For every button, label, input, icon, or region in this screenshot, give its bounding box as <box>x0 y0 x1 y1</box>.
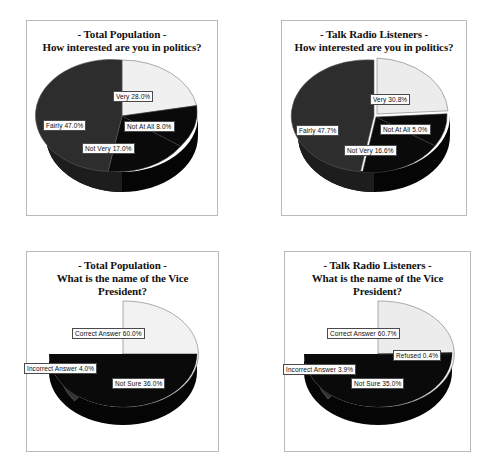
slice-label-fairly: Fairly 47.0% <box>43 120 86 131</box>
chart-title-line-1: - Talk Radio Listeners - <box>287 28 461 41</box>
chart-title-line-1: - Total Population - <box>32 259 213 272</box>
chart-title-line-2: What is the name of the Vice President? <box>290 272 465 298</box>
slice-label-not-at-all: Not At All 8.0% <box>124 121 175 132</box>
chart-title-line-2: How interested are you in politics? <box>32 41 212 54</box>
pie-svg <box>286 54 462 194</box>
slice-label-not-very: Not Very 16.6% <box>344 145 397 156</box>
pie-chart-talk-radio-interest: Very 30.8% Fairly 47.7% Not At All 5.0% … <box>282 54 466 194</box>
pie-slices <box>35 59 197 171</box>
pie-slices <box>49 301 198 407</box>
chart-panel-total-population-interest: - Total Population - How interested are … <box>26 20 218 216</box>
slice-very <box>377 58 448 114</box>
slice-label-incorrect-answer: Incorrect Answer 4.0% <box>24 363 97 374</box>
chart-title-line-2: What is the name of the Vice President? <box>32 272 213 298</box>
chart-title: - Talk Radio Listeners - How interested … <box>282 21 466 54</box>
slice-label-correct-answer: Correct Answer 60.7% <box>327 328 400 339</box>
slice-label-correct-answer: Correct Answer 60.0% <box>72 328 145 339</box>
chart-panel-talk-radio-vp: - Talk Radio Listeners - What is the nam… <box>284 251 471 452</box>
chart-title: - Total Population - How interested are … <box>27 21 217 54</box>
slice-label-not-sure: Not Sure 36.0% <box>112 378 165 389</box>
report-page: - Total Population - How interested are … <box>0 0 485 473</box>
slice-label-fairly: Fairly 47.7% <box>296 125 339 136</box>
slice-label-not-at-all: Not At All 5.0% <box>380 124 431 135</box>
slice-label-incorrect-answer: Incorrect Answer 3.9% <box>283 364 356 375</box>
pie-chart-talk-radio-vp: Correct Answer 60.7% Refused 0.4% Incorr… <box>285 298 470 426</box>
slice-fairly <box>35 59 122 171</box>
chart-title: - Talk Radio Listeners - What is the nam… <box>285 252 470 298</box>
slice-label-not-sure: Not Sure 35.0% <box>351 378 404 389</box>
pie-svg <box>33 298 213 426</box>
slice-label-not-very: Not Very 17.0% <box>82 143 135 154</box>
chart-panel-total-population-vp: - Total Population - What is the name of… <box>26 251 219 452</box>
pie-svg <box>290 298 466 426</box>
pie-chart-total-population-vp: Correct Answer 60.0% Incorrect Answer 4.… <box>27 298 218 426</box>
slice-label-refused: Refused 0.4% <box>393 350 441 361</box>
chart-title-line-2: How interested are you in politics? <box>287 41 461 54</box>
slice-label-very: Very 30.8% <box>370 94 410 105</box>
chart-title-line-1: - Total Population - <box>32 28 212 41</box>
chart-title-line-1: - Talk Radio Listeners - <box>290 259 465 272</box>
pie-chart-total-population-interest: Very 28.0% Fairly 47.0% Not At All 8.0% … <box>27 54 217 194</box>
slice-label-very: Very 28.0% <box>113 91 153 102</box>
chart-title: - Total Population - What is the name of… <box>27 252 218 298</box>
chart-panel-talk-radio-interest: - Talk Radio Listeners - How interested … <box>281 20 467 216</box>
